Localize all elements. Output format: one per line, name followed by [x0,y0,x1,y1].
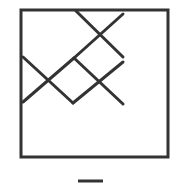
line-diagram [0,0,177,183]
diagonal-lines [23,11,123,104]
